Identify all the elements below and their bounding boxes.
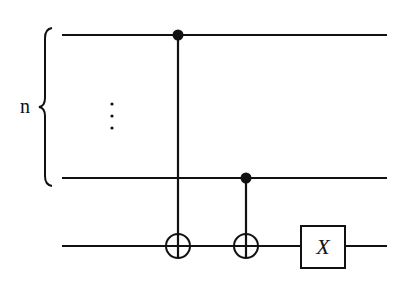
control-dot-icon [241,173,252,184]
control-dot-icon [173,30,184,41]
cnot-gate-1 [166,30,190,259]
ellipsis-icon [110,102,113,129]
register-brace [39,28,52,186]
quantum-circuit-diagram: n X [0,0,404,291]
register-label: n [20,95,30,117]
x-gate-label: X [315,234,331,259]
x-gate: X [301,226,345,268]
